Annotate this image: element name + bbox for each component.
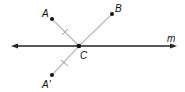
point-b	[110, 12, 114, 16]
label-a: A	[41, 8, 49, 19]
arrow-right-icon	[170, 44, 177, 49]
label-b: B	[115, 3, 122, 14]
arrow-left-icon	[11, 44, 18, 49]
segment-cb	[79, 14, 112, 46]
label-c: C	[80, 50, 88, 61]
point-a	[50, 17, 54, 21]
reflection-diagram: A B C A' m	[0, 0, 185, 92]
segment-ca-prime	[52, 46, 79, 75]
label-a-prime: A'	[41, 79, 52, 90]
point-a-prime	[50, 73, 54, 77]
label-m: m	[167, 33, 175, 44]
point-c	[77, 44, 82, 49]
segment-ac	[52, 19, 79, 46]
